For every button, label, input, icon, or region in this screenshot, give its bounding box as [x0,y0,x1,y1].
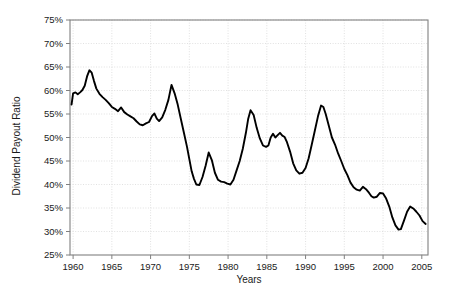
x-axis-title: Years [236,274,261,285]
x-tick-label: 1965 [101,261,122,272]
chart-canvas: 25%30%35%40%45%50%55%60%65%70%75% 196019… [0,0,458,292]
x-tick-label: 1990 [295,261,316,272]
x-tick-label: 1995 [334,261,355,272]
y-tick-label: 55% [44,108,64,119]
y-tick-label: 45% [44,155,64,166]
y-tick-label: 65% [44,61,64,72]
y-tick-label: 60% [44,85,64,96]
x-tick-label: 1985 [256,261,277,272]
x-tick-label: 1960 [63,261,84,272]
y-tick-label: 25% [44,249,64,260]
dividend-payout-ratio-chart: 25%30%35%40%45%50%55%60%65%70%75% 196019… [0,0,458,292]
x-tick-label: 1980 [218,261,239,272]
x-tick-label: 2000 [372,261,393,272]
y-tick-label: 40% [44,179,64,190]
x-tick-label: 2005 [411,261,432,272]
y-tick-label: 70% [44,38,64,49]
x-tick-label: 1975 [179,261,200,272]
y-tick-label: 35% [44,202,64,213]
y-tick-label: 50% [44,132,64,143]
x-axis-ticks: 1960196519701975198019851990199520002005 [63,255,433,272]
y-tick-label: 75% [44,14,64,25]
y-tick-label: 30% [44,226,64,237]
y-axis-ticks: 25%30%35%40%45%50%55%60%65%70%75% [44,14,70,260]
y-axis-title: Dividend Payout Ratio [11,96,22,195]
x-tick-label: 1970 [140,261,161,272]
